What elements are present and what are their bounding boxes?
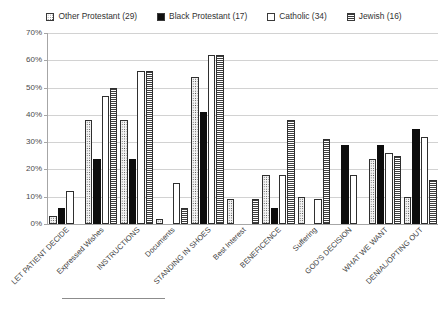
x-axis-category-label: LET PATIENT DECIDE [10, 226, 70, 286]
bar[interactable] [173, 183, 180, 224]
bar[interactable] [412, 129, 419, 225]
bottom-rule [62, 298, 165, 299]
bar-group [154, 33, 189, 224]
y-tick-label: 20% [26, 165, 42, 173]
bar-group [296, 33, 331, 224]
bar[interactable] [421, 137, 428, 224]
bar[interactable] [369, 159, 376, 224]
legend-item[interactable]: Catholic (34) [267, 12, 326, 21]
y-tick-label: 60% [26, 56, 42, 64]
bar[interactable] [66, 191, 73, 224]
legend-label: Catholic (34) [279, 12, 326, 21]
legend-label: Jewish (16) [359, 12, 402, 21]
bar[interactable] [93, 159, 100, 224]
bar[interactable] [181, 208, 188, 224]
bar[interactable] [129, 159, 136, 224]
bar[interactable] [323, 139, 330, 224]
bar[interactable] [271, 208, 278, 224]
bar[interactable] [191, 77, 198, 224]
bar[interactable] [120, 120, 127, 224]
bar[interactable] [102, 96, 109, 224]
y-tick-label: 70% [26, 29, 42, 37]
dots-swatch-icon [46, 13, 54, 21]
chart-legend: Other Protestant (29)Black Protestant (1… [0, 12, 448, 21]
bar[interactable] [252, 199, 259, 224]
legend-label: Other Protestant (29) [58, 12, 137, 21]
bar[interactable] [279, 175, 286, 224]
y-tick-label: 0% [30, 220, 42, 228]
bar[interactable] [287, 120, 294, 224]
x-axis-category-label: Best Interest [212, 226, 248, 262]
bar[interactable] [58, 208, 65, 224]
bar[interactable] [200, 112, 207, 224]
bar-chart: Other Protestant (29)Black Protestant (1… [0, 0, 448, 313]
bar[interactable] [404, 197, 411, 224]
bar[interactable] [341, 145, 348, 224]
legend-item[interactable]: Jewish (16) [347, 12, 402, 21]
bar-group [332, 33, 367, 224]
bar-group [261, 33, 296, 224]
legend-item[interactable]: Black Protestant (17) [157, 12, 247, 21]
bar[interactable] [298, 197, 305, 224]
bar[interactable] [216, 55, 223, 224]
legend-item[interactable]: Other Protestant (29) [46, 12, 137, 21]
bar-groups [48, 33, 438, 224]
hlines-swatch-icon [347, 13, 355, 21]
bar-group [367, 33, 402, 224]
x-axis-category-label: Suffering [292, 226, 319, 253]
bar-group [190, 33, 225, 224]
legend-label: Black Protestant (17) [169, 12, 247, 21]
x-axis-category-label: Documents [144, 226, 177, 259]
bar-group [83, 33, 118, 224]
bar[interactable] [137, 71, 144, 224]
y-tick-label: 30% [26, 138, 42, 146]
bar[interactable] [208, 55, 215, 224]
open-swatch-icon [267, 13, 275, 21]
bar[interactable] [377, 145, 384, 224]
solid-swatch-icon [157, 13, 165, 21]
y-tick-label: 50% [26, 84, 42, 92]
bar[interactable] [314, 199, 321, 224]
bar-group [403, 33, 438, 224]
bar-group [48, 33, 83, 224]
bar[interactable] [429, 180, 436, 224]
bar[interactable] [49, 216, 56, 224]
bar[interactable] [85, 120, 92, 224]
bar[interactable] [350, 175, 357, 224]
bar[interactable] [262, 175, 269, 224]
bar[interactable] [146, 71, 153, 224]
y-tick-label: 10% [26, 193, 42, 201]
bar[interactable] [227, 199, 234, 224]
bar[interactable] [394, 156, 401, 224]
bar[interactable] [110, 88, 117, 224]
plot-area: 0%10%20%30%40%50%60%70% [47, 33, 438, 225]
bar[interactable] [385, 153, 392, 224]
bar-group [119, 33, 154, 224]
y-tick-label: 40% [26, 111, 42, 119]
bar-group [225, 33, 260, 224]
